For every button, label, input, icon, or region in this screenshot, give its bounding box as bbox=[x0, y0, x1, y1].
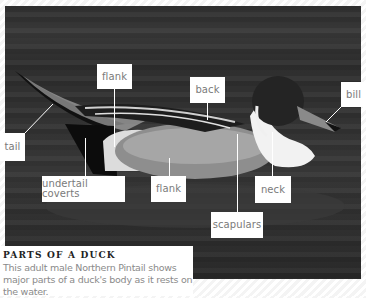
label-tail: tail bbox=[0, 133, 25, 161]
caption-title: PARTS OF A DUCK bbox=[3, 250, 116, 260]
label-flank-lower: flank bbox=[151, 176, 186, 202]
label-neck: neck bbox=[255, 176, 291, 203]
label-bill: bill bbox=[341, 82, 366, 107]
caption-box: PARTS OF A DUCK This adult male Northern… bbox=[0, 246, 193, 296]
label-back: back bbox=[190, 77, 225, 103]
caption-text: This adult male Northern Pintail shows m… bbox=[3, 262, 195, 298]
label-flank-upper: flank bbox=[97, 64, 132, 89]
label-scapulars: scapulars bbox=[211, 212, 263, 238]
label-undertail-coverts: undertail coverts bbox=[42, 176, 125, 202]
